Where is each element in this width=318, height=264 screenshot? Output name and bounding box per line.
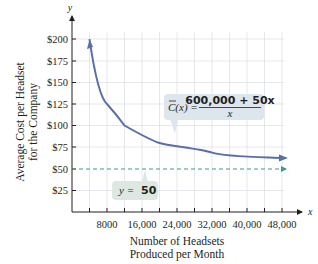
y-tick-label: $175 <box>47 56 68 67</box>
curve-right-arrow <box>279 155 288 162</box>
y-axis-title-line2: for the Company <box>27 83 40 161</box>
y-tick-label: $50 <box>52 164 68 175</box>
y-axis-variable: y <box>67 2 73 13</box>
formula-denominator: x <box>227 107 233 119</box>
asymptote-rhs: 50 <box>141 184 157 197</box>
x-axis-variable: x <box>307 206 313 217</box>
x-tick-label: 8000 <box>97 219 118 230</box>
y-tick-label: $150 <box>47 77 68 88</box>
x-tick-labels: 8000 16,000 24,000 32,000 40,000 48,000 <box>97 219 297 230</box>
asymptote-callout: y = 50 <box>112 170 158 200</box>
y-ticks <box>72 39 76 191</box>
x-tick-label: 24,000 <box>163 219 192 230</box>
x-tick-label: 16,000 <box>128 219 157 230</box>
average-cost-chart: $200 $175 $150 $125 $100 $75 $50 $25 800… <box>0 0 318 264</box>
y-tick-label: $75 <box>52 142 68 153</box>
y-tick-label: $25 <box>52 185 68 196</box>
curve-top-arrow <box>87 39 93 49</box>
y-tick-label: $100 <box>47 120 68 131</box>
y-tick-labels: $200 $175 $150 $125 $100 $75 $50 $25 <box>47 34 68 197</box>
formula-numerator: 600,000 + 50x <box>185 94 274 107</box>
y-tick-label: $125 <box>47 99 68 110</box>
asymptote-lhs: y = <box>118 184 134 196</box>
x-axis-title: Number of Headsets Produced per Month <box>130 235 225 261</box>
y-tick-label: $200 <box>47 34 68 45</box>
x-axis-title-line1: Number of Headsets <box>130 235 225 247</box>
x-tick-label: 40,000 <box>233 219 262 230</box>
x-tick-label: 32,000 <box>198 219 227 230</box>
x-ticks <box>90 208 283 212</box>
x-axis-title-line2: Produced per Month <box>130 248 225 261</box>
grid <box>72 32 284 212</box>
y-axis-title: Average Cost per Headset for the Company <box>14 61 40 181</box>
y-axis-title-line1: Average Cost per Headset <box>14 61 27 181</box>
x-tick-label: 48,000 <box>268 219 297 230</box>
formula-callout: C(x) = 600,000 + 50x x <box>164 94 275 134</box>
